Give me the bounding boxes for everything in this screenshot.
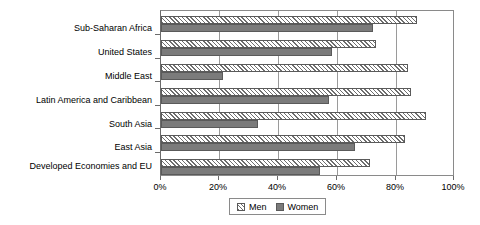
bar-chart: Sub-Saharan Africa United States Middle … — [0, 0, 480, 225]
y-axis-label-1: United States — [0, 47, 152, 57]
legend-label-men: Men — [249, 202, 267, 212]
legend-item-women[interactable]: Women — [276, 202, 319, 212]
y-axis-label-4: South Asia — [0, 119, 152, 129]
x-axis-tick-40 — [277, 176, 278, 180]
bar-men-developed-economies-and-eu — [161, 159, 370, 167]
y-axis-label-3: Latin America and Caribbean — [0, 95, 152, 105]
bar-women-developed-economies-and-eu — [161, 167, 320, 175]
bar-men-south-asia — [161, 112, 426, 120]
legend-item-men[interactable]: Men — [237, 202, 267, 212]
bar-men-east-asia — [161, 135, 405, 143]
bar-women-south-asia — [161, 120, 258, 128]
x-axis-tick-0 — [160, 176, 161, 180]
y-axis-label-6: Developed Economies and EU — [0, 161, 152, 171]
y-axis-label-2: Middle East — [0, 71, 152, 81]
x-axis-tick-80 — [395, 176, 396, 180]
legend-swatch-men-icon — [237, 203, 245, 211]
legend-swatch-women-icon — [276, 203, 284, 211]
bar-men-sub-saharan-africa — [161, 16, 417, 24]
bar-women-sub-saharan-africa — [161, 24, 373, 32]
bar-women-east-asia — [161, 143, 355, 151]
x-axis-tick-label-80: 80% — [375, 182, 415, 193]
y-axis-category-labels: Sub-Saharan Africa United States Middle … — [0, 10, 156, 176]
x-axis-tick-label-0: 0% — [140, 182, 180, 193]
bar-men-middle-east — [161, 64, 408, 72]
x-axis-tick-100 — [453, 176, 454, 180]
x-axis-tick-label-40: 40% — [257, 182, 297, 193]
bar-men-united-states — [161, 40, 376, 48]
y-axis-label-5: East Asia — [0, 142, 152, 152]
y-axis-label-0: Sub-Saharan Africa — [0, 23, 152, 33]
x-axis-tick-label-60: 60% — [316, 182, 356, 193]
chart-legend: Men Women — [229, 198, 326, 215]
plot-area — [160, 10, 454, 176]
legend-label-women: Women — [288, 202, 319, 212]
bar-women-united-states — [161, 48, 332, 56]
x-axis-tick-label-100: 100% — [433, 182, 473, 193]
bar-women-latin-america-and-caribbean — [161, 96, 329, 104]
x-axis-tick-60 — [336, 176, 337, 180]
x-axis-tick-20 — [218, 176, 219, 180]
x-axis-tick-label-20: 20% — [198, 182, 238, 193]
bar-men-latin-america-and-caribbean — [161, 88, 411, 96]
bar-women-middle-east — [161, 72, 223, 80]
